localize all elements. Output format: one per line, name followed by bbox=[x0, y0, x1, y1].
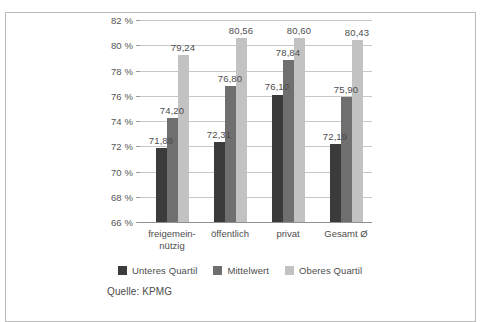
bar bbox=[341, 97, 352, 222]
chart-legend: Unteres QuartilMittelwertOberes Quartil bbox=[118, 265, 362, 276]
bar bbox=[156, 148, 167, 222]
legend-item[interactable]: Unteres Quartil bbox=[118, 265, 197, 276]
data-label: 75,90 bbox=[334, 84, 358, 95]
legend-swatch-icon bbox=[118, 266, 127, 275]
bar-group bbox=[330, 20, 363, 222]
y-axis-tick-72 bbox=[136, 146, 140, 147]
y-axis-tick-74 bbox=[136, 121, 140, 122]
y-axis-tick-66 bbox=[136, 222, 140, 223]
x-axis-category-label: privat bbox=[276, 228, 299, 240]
y-axis-tick-78 bbox=[136, 71, 140, 72]
data-label: 78,84 bbox=[276, 47, 300, 58]
y-axis-tick-82 bbox=[136, 20, 140, 21]
legend-label: Oberes Quartil bbox=[299, 265, 362, 276]
bar-group bbox=[214, 20, 247, 222]
legend-label: Mittelwert bbox=[227, 265, 269, 276]
legend-swatch-icon bbox=[285, 266, 294, 275]
y-axis-label-80: 80 % bbox=[111, 40, 133, 51]
y-axis-label-82: 82 % bbox=[111, 15, 133, 26]
data-label: 76,80 bbox=[218, 73, 242, 84]
bar bbox=[272, 95, 283, 223]
bar bbox=[225, 86, 236, 222]
legend-item[interactable]: Mittelwert bbox=[213, 265, 269, 276]
data-label: 79,24 bbox=[171, 42, 195, 53]
y-axis-label-66: 66 % bbox=[111, 217, 133, 228]
y-axis-label-68: 68 % bbox=[111, 191, 133, 202]
data-label: 80,60 bbox=[287, 25, 311, 36]
legend-label: Unteres Quartil bbox=[132, 265, 197, 276]
x-axis-category-label: Gesamt Ø bbox=[324, 228, 367, 240]
data-label: 80,56 bbox=[229, 25, 253, 36]
legend-swatch-icon bbox=[213, 266, 222, 275]
bar bbox=[214, 142, 225, 222]
bar bbox=[236, 38, 247, 222]
x-axis-category-label: öffentlich bbox=[211, 228, 249, 240]
bar bbox=[294, 38, 305, 222]
data-label: 72,31 bbox=[207, 129, 231, 140]
plot-area: 82 %80 %78 %76 %74 %72 %70 %68 %66 % 71,… bbox=[140, 20, 372, 222]
data-label: 80,43 bbox=[345, 27, 369, 38]
y-axis-label-70: 70 % bbox=[111, 166, 133, 177]
source-note: Quelle: KPMG bbox=[107, 286, 172, 297]
y-axis-label-78: 78 % bbox=[111, 65, 133, 76]
y-axis-label-72: 72 % bbox=[111, 141, 133, 152]
y-axis-tick-76 bbox=[136, 96, 140, 97]
y-axis-label-76: 76 % bbox=[111, 90, 133, 101]
legend-item[interactable]: Oberes Quartil bbox=[285, 265, 362, 276]
y-axis-tick-70 bbox=[136, 172, 140, 173]
data-label: 71,88 bbox=[149, 135, 173, 146]
x-axis-category-label: freigemein- nützig bbox=[148, 228, 196, 251]
y-axis-label-74: 74 % bbox=[111, 116, 133, 127]
data-label: 74,20 bbox=[160, 105, 184, 116]
bar bbox=[352, 40, 363, 222]
data-label: 76,10 bbox=[265, 81, 289, 92]
bar bbox=[330, 144, 341, 222]
gridline-66 bbox=[140, 222, 372, 223]
y-axis-tick-68 bbox=[136, 197, 140, 198]
data-label: 72,19 bbox=[323, 131, 347, 142]
y-axis-tick-80 bbox=[136, 45, 140, 46]
bar bbox=[178, 55, 189, 222]
